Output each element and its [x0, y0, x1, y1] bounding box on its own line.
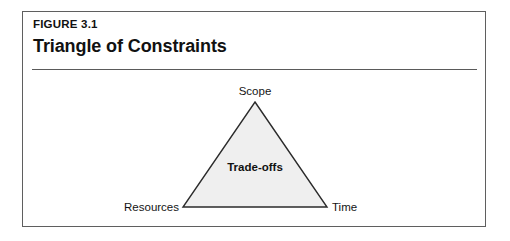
constraints-triangle-shape — [183, 102, 327, 207]
figure-root: FIGURE 3.1 Triangle of Constraints Scope… — [0, 0, 510, 241]
vertex-label-scope: Scope — [239, 85, 272, 97]
vertex-label-time: Time — [332, 201, 357, 213]
figure-title: Triangle of Constraints — [33, 35, 477, 57]
vertex-label-resources: Resources — [124, 201, 179, 213]
triangle-diagram: Scope Resources Time Trade-offs — [22, 72, 486, 227]
triangle-center-label: Trade-offs — [227, 161, 283, 173]
figure-header: FIGURE 3.1 Triangle of Constraints — [33, 17, 477, 57]
figure-number-label: FIGURE 3.1 — [33, 17, 477, 32]
triangle-diagram-svg: Scope Resources Time Trade-offs — [22, 72, 486, 227]
header-divider — [32, 69, 477, 70]
